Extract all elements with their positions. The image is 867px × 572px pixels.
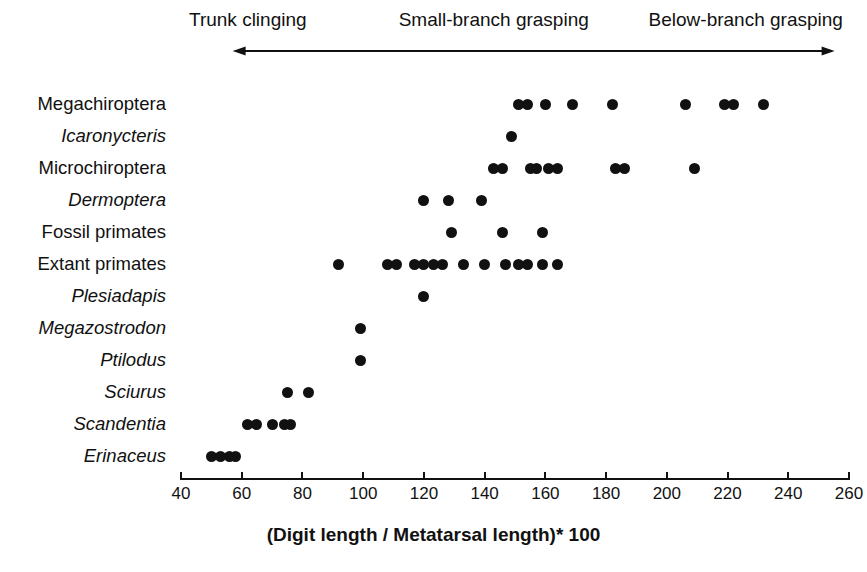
data-point (443, 195, 454, 206)
x-axis-tick (666, 472, 668, 480)
behaviour-label-2: Small-branch grasping (399, 8, 589, 32)
data-point (552, 259, 563, 270)
plot-row-fossil-primates (172, 216, 867, 248)
data-point (437, 259, 448, 270)
taxon-label-fossil-primates: Fossil primates (0, 216, 172, 248)
taxon-label-sciurus: Sciurus (0, 376, 172, 408)
x-axis-tick (605, 472, 607, 480)
data-point (418, 195, 429, 206)
behaviour-label-3: Below-branch grasping (649, 8, 843, 32)
taxon-label-erinaceus: Erinaceus (0, 440, 172, 472)
x-axis-tick-label: 240 (774, 484, 802, 504)
plot-row-sciurus (172, 376, 867, 408)
plot-row-scandentia (172, 408, 867, 440)
data-point (552, 163, 563, 174)
behaviour-range-arrow-icon (230, 44, 837, 58)
plot-row-microchiroptera (172, 152, 867, 184)
data-point (537, 227, 548, 238)
x-axis-tick-label: 120 (410, 484, 438, 504)
taxon-label-dermoptera: Dermoptera (0, 184, 172, 216)
data-point (303, 387, 314, 398)
taxon-label-icaronycteris: Icaronycteris (0, 120, 172, 152)
plot-area (172, 88, 867, 472)
data-point (497, 163, 508, 174)
data-point (522, 259, 533, 270)
x-axis-tick-label: 140 (470, 484, 498, 504)
data-point (619, 163, 630, 174)
data-point (531, 163, 542, 174)
x-axis-tick (301, 472, 303, 480)
data-point (680, 99, 691, 110)
data-point (479, 259, 490, 270)
plot-row-plesiadapis (172, 280, 867, 312)
x-axis-tick (362, 472, 364, 480)
data-point (267, 419, 278, 430)
x-axis-tick (544, 472, 546, 480)
x-axis-tick (727, 472, 729, 480)
x-axis-tick (787, 472, 789, 480)
data-point (506, 131, 517, 142)
x-axis-tick (423, 472, 425, 480)
x-axis-tick-label: 160 (531, 484, 559, 504)
data-point (458, 259, 469, 270)
x-axis-tick-label: 80 (293, 484, 312, 504)
data-point (758, 99, 769, 110)
x-axis-tick-label: 200 (653, 484, 681, 504)
data-point (391, 259, 402, 270)
taxa-label-column: MegachiropteraIcaronycterisMicrochiropte… (0, 88, 172, 472)
taxon-label-scandentia: Scandentia (0, 408, 172, 440)
behaviour-band: Trunk clingingSmall-branch graspingBelow… (0, 8, 867, 38)
taxon-label-microchiroptera: Microchiroptera (0, 152, 172, 184)
data-point (282, 387, 293, 398)
data-point (607, 99, 618, 110)
data-point (355, 355, 366, 366)
taxon-label-extant-primates: Extant primates (0, 248, 172, 280)
plot-row-megazostrodon (172, 312, 867, 344)
plot-row-extant-primates (172, 248, 867, 280)
data-point (333, 259, 344, 270)
x-axis-tick-label: 60 (232, 484, 251, 504)
data-point (537, 259, 548, 270)
data-point (500, 259, 511, 270)
data-point (285, 419, 296, 430)
data-point (540, 99, 551, 110)
data-point (476, 195, 487, 206)
x-axis-tick-label: 260 (835, 484, 863, 504)
data-point (689, 163, 700, 174)
x-axis-tick (241, 472, 243, 480)
data-point (251, 419, 262, 430)
taxon-label-megazostrodon: Megazostrodon (0, 312, 172, 344)
data-point (567, 99, 578, 110)
taxon-label-megachiroptera: Megachiroptera (0, 88, 172, 120)
x-axis-tick-label: 100 (349, 484, 377, 504)
x-axis-title: (Digit length / Metatarsal length)* 100 (0, 524, 867, 546)
data-point (446, 227, 457, 238)
plot-row-ptilodus (172, 344, 867, 376)
data-point (497, 227, 508, 238)
x-axis-tick-label: 180 (592, 484, 620, 504)
taxon-label-ptilodus: Ptilodus (0, 344, 172, 376)
plot-row-icaronycteris (172, 120, 867, 152)
data-point (355, 323, 366, 334)
behaviour-label-1: Trunk clinging (189, 8, 307, 32)
plot-row-dermoptera (172, 184, 867, 216)
x-axis-tick (848, 472, 850, 480)
taxon-label-plesiadapis: Plesiadapis (0, 280, 172, 312)
x-axis-tick-label: 40 (172, 484, 191, 504)
plot-row-megachiroptera (172, 88, 867, 120)
scatter-chart-figure: Trunk clingingSmall-branch graspingBelow… (0, 0, 867, 572)
data-point (728, 99, 739, 110)
data-point (418, 291, 429, 302)
x-axis: 406080100120140160180200220240260 (172, 472, 867, 494)
data-point (522, 99, 533, 110)
x-axis-tick (180, 472, 182, 480)
x-axis-line (181, 478, 849, 480)
x-axis-tick (484, 472, 486, 480)
plot-row-erinaceus (172, 440, 867, 472)
x-axis-tick-label: 220 (713, 484, 741, 504)
data-point (230, 451, 241, 462)
